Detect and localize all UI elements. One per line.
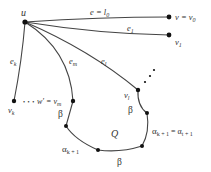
path-beta-right-upper (138, 90, 147, 113)
ellipsis-dot (153, 69, 155, 71)
node-vl (136, 88, 140, 92)
label-ellipsis-h: • • • (23, 99, 35, 105)
label-beta-right: β (128, 105, 133, 115)
node-v1 (167, 33, 172, 38)
ellipsis-dot (144, 81, 146, 83)
label-v0: v = v0 (175, 12, 196, 23)
node-q3 (96, 148, 100, 152)
label-vm: w' = vm (37, 97, 62, 107)
label-vl: vl (124, 90, 130, 101)
label-e-l0: e = l0 (90, 7, 109, 18)
path-beta-bottom (98, 146, 142, 151)
label-beta-bottom: β (117, 157, 122, 167)
edge-e-l0 (25, 17, 169, 22)
label-u: u (21, 7, 26, 18)
path-beta-left (66, 101, 73, 126)
label-beta-left: β (58, 109, 63, 119)
path-alpha-left (66, 126, 98, 150)
label-region-q: Q (111, 128, 119, 139)
label-e1: e1 (127, 23, 134, 34)
node-vk (12, 99, 16, 103)
graph-diagram: u v = v0 v1 vk w' = vm • • • vl e = l0 e… (0, 0, 211, 172)
edge-el (25, 22, 138, 90)
label-em: em (69, 56, 78, 67)
node-q1 (145, 111, 149, 115)
label-alpha-right: αk + 1 = αt + 1 (152, 126, 193, 137)
ellipsis-dot (149, 75, 151, 77)
label-alpha-left: αk + 1 (62, 144, 79, 155)
node-q2 (140, 144, 144, 148)
label-ek: ek (10, 56, 17, 67)
node-vm (71, 99, 75, 103)
node-q4 (64, 124, 68, 128)
label-vk: vk (8, 105, 15, 116)
label-el: el (101, 56, 107, 67)
edge-e1 (25, 22, 169, 35)
label-v1: v1 (175, 37, 182, 48)
edge-em (25, 22, 73, 101)
path-alpha-right (142, 113, 148, 146)
node-u (22, 19, 27, 24)
node-v0 (167, 15, 172, 20)
